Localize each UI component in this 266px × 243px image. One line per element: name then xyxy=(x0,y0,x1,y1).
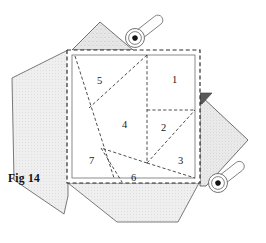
piece-label-7: 7 xyxy=(89,155,94,166)
piece-label-6: 6 xyxy=(131,172,136,183)
piece-label-5: 5 xyxy=(97,75,102,86)
clips-layer xyxy=(0,0,266,243)
figure-caption: Fig 14 xyxy=(8,172,40,184)
piece-label-2: 2 xyxy=(161,122,166,133)
piece-label-1: 1 xyxy=(172,74,177,85)
figure-canvas: 1 2 3 4 5 6 7 Fig 14 xyxy=(0,0,266,243)
clip-top-right[interactable] xyxy=(122,10,168,52)
piece-label-3: 3 xyxy=(178,155,183,166)
piece-label-4: 4 xyxy=(122,119,127,130)
clip-bottom-right[interactable] xyxy=(205,156,249,197)
